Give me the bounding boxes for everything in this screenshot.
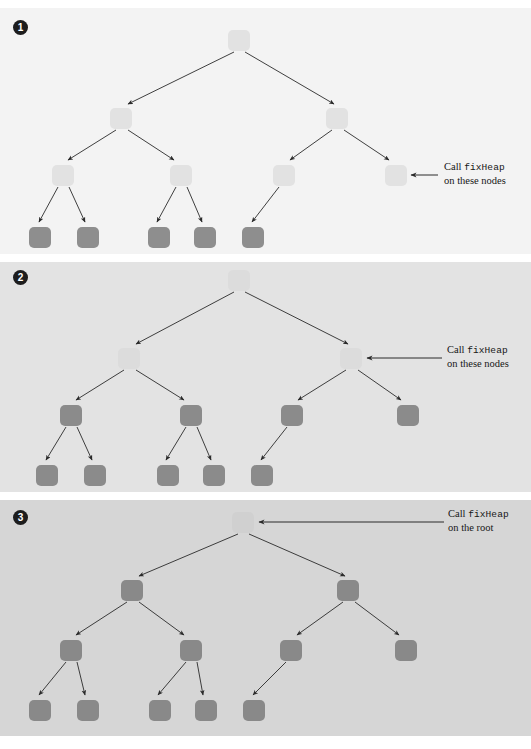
panel-1-callout-line1-code: fixHeap (464, 162, 505, 173)
node-l2-4 (397, 405, 419, 426)
panel-1-edges (0, 8, 531, 254)
node-l2-4 (395, 640, 417, 661)
panel-1-callout: Call fixHeap on these nodes (444, 161, 506, 187)
node-l3-4 (195, 700, 217, 721)
node-l3-1 (36, 465, 58, 486)
panel-3-callout-line2: on the root (448, 522, 509, 535)
node-l3-5 (243, 700, 265, 721)
panel-2-stage: 2 (0, 262, 531, 492)
panel-2-callout-arrow (364, 351, 444, 365)
node-l2-2 (180, 405, 202, 426)
node-l3-3 (157, 465, 179, 486)
node-l2-1 (60, 640, 82, 661)
node-l1-left (121, 580, 143, 601)
panel-3-callout-line1-code: fixHeap (468, 509, 509, 520)
panel-3-callout-arrow (256, 515, 446, 529)
node-l1-left (118, 348, 140, 369)
node-l2-2 (170, 165, 192, 186)
node-l2-1 (60, 405, 82, 426)
node-l3-1 (29, 700, 51, 721)
panel-step-1: 1 (0, 8, 531, 254)
panel-1-callout-arrow (408, 168, 440, 182)
panel-1-callout-line1-prefix: Call (444, 161, 464, 172)
node-l3-3 (149, 700, 171, 721)
node-l3-2 (84, 465, 106, 486)
panel-2-callout-line2: on these nodes (447, 358, 509, 371)
panel-3-stage: 3 (0, 500, 531, 736)
node-l3-5 (242, 227, 264, 248)
panel-3-callout: Call fixHeap on the root (448, 508, 509, 534)
panel-1-callout-line2: on these nodes (444, 175, 506, 188)
node-l3-1 (29, 227, 51, 248)
node-l1-right (326, 108, 348, 129)
panel-1-step-badge: 1 (13, 20, 28, 35)
node-l3-4 (194, 227, 216, 248)
node-l2-3 (281, 405, 303, 426)
node-l3-2 (77, 700, 99, 721)
node-l2-3 (280, 640, 302, 661)
node-l3-4 (203, 465, 225, 486)
node-l3-2 (77, 227, 99, 248)
node-root (232, 512, 254, 533)
node-root (228, 30, 250, 51)
panel-2-step-badge: 2 (13, 270, 28, 285)
panel-2-callout-line1-prefix: Call (447, 344, 467, 355)
panel-3-callout-line1-prefix: Call (448, 508, 468, 519)
node-root (228, 270, 250, 291)
node-l2-2 (180, 640, 202, 661)
panel-2-edges (0, 262, 531, 492)
figure-caption (8, 740, 523, 749)
node-l1-left (110, 108, 132, 129)
heap-construction-figure: 1 (0, 0, 531, 749)
node-l3-5 (251, 465, 273, 486)
panel-3-step-badge: 3 (13, 510, 28, 525)
node-l2-4 (385, 165, 407, 186)
node-l2-1 (52, 165, 74, 186)
node-l1-right (340, 348, 362, 369)
panel-step-2: 2 (0, 262, 531, 492)
panel-2-callout-line1-code: fixHeap (467, 345, 508, 356)
panel-2-callout: Call fixHeap on these nodes (447, 344, 509, 370)
node-l3-3 (148, 227, 170, 248)
node-l1-right (337, 580, 359, 601)
node-l2-3 (273, 165, 295, 186)
panel-step-3: 3 (0, 500, 531, 736)
panel-1-stage: 1 (0, 8, 531, 254)
